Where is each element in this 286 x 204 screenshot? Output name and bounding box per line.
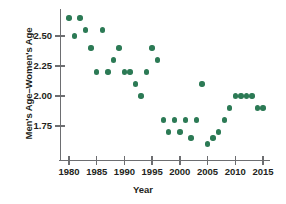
x-tick-mark xyxy=(179,156,180,165)
y-tick-label-wrap: 1.75 xyxy=(18,121,52,131)
y-tick-label: 1.75 xyxy=(22,121,52,131)
data-point xyxy=(166,129,171,134)
data-point xyxy=(105,69,110,74)
plot-area: 1.752.002.252.50 19801985199019952000200… xyxy=(0,0,286,204)
x-axis-spine xyxy=(59,160,270,161)
x-tick-mark xyxy=(151,156,152,165)
data-point xyxy=(72,33,77,38)
data-point xyxy=(161,117,166,122)
scatter-chart-figure: Men's Age–Women's Age 1.752.002.252.50 1… xyxy=(0,0,286,204)
data-point xyxy=(77,15,82,20)
data-point xyxy=(111,57,116,62)
data-point xyxy=(227,105,232,110)
data-point xyxy=(177,129,182,134)
data-point xyxy=(155,57,160,62)
data-point xyxy=(183,117,188,122)
x-tick-mark xyxy=(124,156,125,165)
data-point xyxy=(199,81,204,86)
data-point xyxy=(127,69,132,74)
data-point xyxy=(188,135,193,140)
x-tick-mark xyxy=(262,156,263,165)
y-tick-label-wrap: 2.50 xyxy=(18,31,52,41)
y-tick-label-wrap: 2.25 xyxy=(18,61,52,71)
data-point xyxy=(238,93,243,98)
data-point xyxy=(94,69,99,74)
y-tick-label: 2.25 xyxy=(22,61,52,71)
x-axis-title: Year xyxy=(0,184,286,195)
data-point xyxy=(194,117,199,122)
data-point xyxy=(205,141,210,146)
data-point xyxy=(133,81,138,86)
x-tick-label: 2000 xyxy=(165,166,195,177)
data-point xyxy=(83,27,88,32)
data-point xyxy=(144,69,149,74)
x-tick-label: 1980 xyxy=(54,166,84,177)
x-tick-label: 2010 xyxy=(220,166,250,177)
y-tick-mark xyxy=(55,125,65,126)
y-axis-spine xyxy=(60,9,61,161)
x-tick-label: 2015 xyxy=(248,166,278,177)
x-tick-mark xyxy=(207,156,208,165)
y-tick-label: 2.50 xyxy=(22,31,52,41)
x-tick-mark xyxy=(96,156,97,165)
data-point xyxy=(172,117,177,122)
data-point xyxy=(149,45,154,50)
data-point xyxy=(210,135,215,140)
data-point xyxy=(260,105,265,110)
data-point xyxy=(88,45,93,50)
x-tick-label: 2005 xyxy=(193,166,223,177)
y-tick-label: 2.00 xyxy=(22,91,52,101)
y-tick-mark xyxy=(55,35,65,36)
x-tick-mark xyxy=(68,156,69,165)
data-point xyxy=(66,15,71,20)
x-tick-label: 1995 xyxy=(137,166,167,177)
data-point xyxy=(116,45,121,50)
y-tick-mark xyxy=(55,95,65,96)
x-tick-mark xyxy=(235,156,236,165)
y-tick-label-wrap: 2.00 xyxy=(18,91,52,101)
data-point xyxy=(222,117,227,122)
data-point xyxy=(138,93,143,98)
x-tick-label: 1985 xyxy=(82,166,112,177)
data-point xyxy=(100,27,105,32)
x-tick-label: 1990 xyxy=(109,166,139,177)
data-point xyxy=(249,93,254,98)
data-point xyxy=(216,129,221,134)
y-tick-mark xyxy=(55,65,65,66)
